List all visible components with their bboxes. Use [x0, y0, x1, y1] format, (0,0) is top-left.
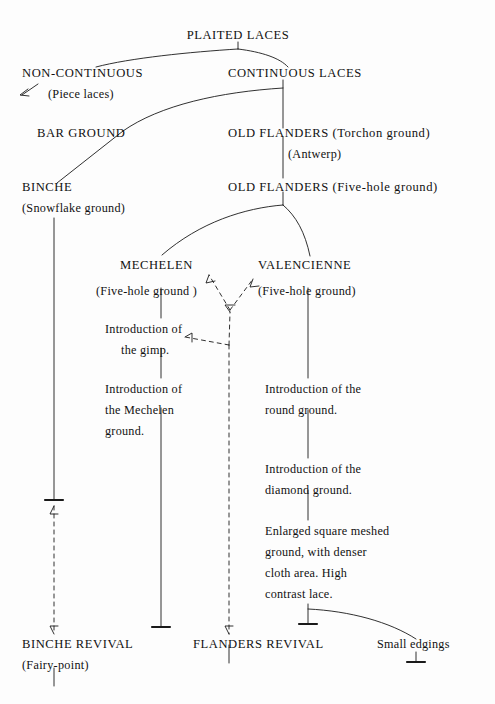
node-enlarged-square-meshed-ground: Enlarged square meshed ground, with dens… — [265, 521, 435, 605]
intro-gimp-line-1: Introduction of — [105, 319, 215, 340]
node-binche-snowflake: (Snowflake ground) — [22, 200, 125, 218]
node-binche-revival: BINCHE REVIVAL — [22, 635, 133, 653]
node-old-flanders-five-hole: OLD FLANDERS (Five-hole ground) — [228, 178, 438, 196]
intro-round-line-1: Introduction of the — [265, 379, 405, 400]
arrowhead-junction-down — [225, 305, 235, 312]
node-mechelen: MECHELEN — [120, 256, 193, 274]
arrowhead-binche-revival-up — [50, 506, 58, 514]
enlarged-line-3: cloth area. High — [265, 563, 435, 584]
edge-noncontinuous-to-piece — [22, 84, 38, 95]
node-mechelen-five-hole: (Five-hole ground ) — [96, 283, 197, 301]
node-plaited-laces: PLAITED LACES — [187, 26, 290, 44]
arrowhead-binche-revival-down — [50, 626, 58, 634]
node-flanders-revival: FLANDERS REVIVAL — [193, 635, 324, 653]
node-valencienne: VALENCIENNE — [258, 256, 351, 274]
diagram-canvas: PLAITED LACES NON-CONTINUOUS (Piece lace… — [0, 0, 495, 704]
node-introduction-mechelen-ground: Introduction of the Mechelen ground. — [105, 379, 215, 442]
node-small-edgings: Small edgings — [377, 634, 450, 655]
dashed-lower-to-junction — [229, 312, 230, 345]
enlarged-line-4: contrast lace. — [265, 584, 435, 605]
intro-round-line-2: round ground. — [265, 400, 405, 421]
arrowhead-mechelen — [206, 275, 215, 283]
node-continuous-laces: CONTINUOUS LACES — [228, 64, 362, 82]
dashed-junction-to-valencienne — [230, 279, 253, 310]
intro-diamond-line-2: diamond ground. — [265, 480, 405, 501]
node-binche: BINCHE — [22, 178, 72, 196]
enlarged-line-2: ground, with denser — [265, 542, 435, 563]
node-valencienne-five-hole: (Five-hole ground) — [258, 283, 356, 301]
edge-fivehole-to-valencienne — [283, 205, 310, 256]
enlarged-line-1: Enlarged square meshed — [265, 521, 435, 542]
intro-diamond-line-1: Introduction of the — [265, 459, 405, 480]
node-bar-ground: BAR GROUND — [37, 124, 125, 142]
intro-mech-line-2: the Mechelen — [105, 400, 215, 421]
arrow-piece-laces — [20, 89, 29, 96]
intro-gimp-line-2: the gimp. — [105, 340, 215, 361]
node-introduction-gimp: Introduction of the gimp. — [105, 319, 215, 361]
node-antwerp: (Antwerp) — [288, 146, 341, 164]
arrowhead-flanders-revival — [225, 626, 233, 634]
node-introduction-round-ground: Introduction of the round ground. — [265, 379, 405, 421]
dashed-junction-to-mechelen — [209, 275, 230, 310]
node-piece-laces: (Piece laces) — [48, 86, 114, 104]
intro-mech-line-3: ground. — [105, 421, 215, 442]
node-introduction-diamond-ground: Introduction of the diamond ground. — [265, 459, 405, 501]
edge-fivehole-to-mechelen — [162, 205, 283, 255]
intro-mech-line-1: Introduction of — [105, 379, 215, 400]
node-non-continuous: NON-CONTINUOUS — [22, 64, 143, 82]
node-fairy-point: (Fairy-point) — [22, 657, 89, 675]
node-old-flanders-torchon: OLD FLANDERS (Torchon ground) — [228, 124, 430, 142]
